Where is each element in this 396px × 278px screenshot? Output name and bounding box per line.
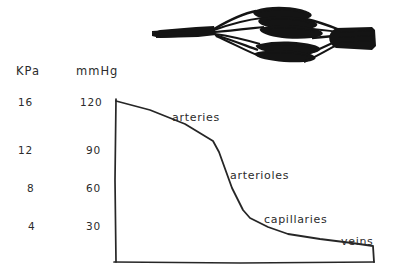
label-veins: veins bbox=[341, 235, 374, 248]
y-axis-line bbox=[115, 99, 116, 262]
figure-canvas: KPa mmHg 16 12 8 4 120 90 60 30 arteries… bbox=[0, 0, 396, 278]
label-arteries: arteries bbox=[172, 111, 220, 124]
label-arterioles: arterioles bbox=[230, 169, 289, 182]
pressure-chart-svg bbox=[0, 0, 396, 278]
label-capillaries: capillaries bbox=[264, 213, 327, 226]
x-axis-line bbox=[114, 262, 374, 263]
